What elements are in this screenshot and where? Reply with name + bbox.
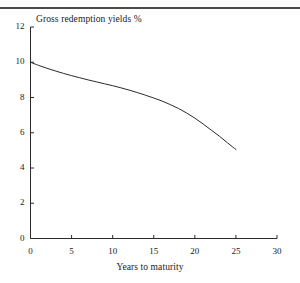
x-axis-tick-label: 5 <box>63 246 81 256</box>
x-axis-tick-label: 25 <box>227 246 245 256</box>
x-axis-tick-label: 15 <box>145 246 163 256</box>
x-axis-title: Years to maturity <box>0 262 300 272</box>
x-axis-tick-label: 10 <box>104 246 122 256</box>
x-axis-tick-label: 30 <box>268 246 286 256</box>
y-axis-tick-label: 10 <box>7 56 25 66</box>
y-axis-tick-label: 8 <box>7 92 25 102</box>
y-axis-tick-label: 12 <box>7 21 25 31</box>
x-axis-tick-label: 20 <box>186 246 204 256</box>
y-axis-tick-label: 0 <box>7 233 25 243</box>
y-axis-tick-label: 4 <box>7 162 25 172</box>
y-axis-tick-label: 6 <box>7 127 25 137</box>
y-axis-tick-label: 2 <box>7 197 25 207</box>
y-axis-ticks <box>31 27 35 239</box>
chart-plot-area <box>0 0 300 283</box>
yield-curve-line <box>31 62 236 149</box>
x-axis-tick-label: 0 <box>22 246 40 256</box>
x-axis-ticks <box>31 235 278 239</box>
chart-page: Gross redemption yields % 024681012 0510… <box>0 0 300 283</box>
